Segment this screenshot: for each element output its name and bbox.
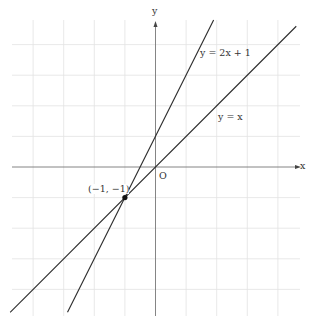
y-axis-label: y (152, 6, 157, 16)
x-axis-label: x (300, 161, 305, 171)
intersection-label: (−1, −1) (88, 184, 129, 194)
intersection-point (122, 195, 127, 200)
coordinate-plane (0, 0, 313, 331)
plotted-lines (10, 20, 296, 312)
line-label-2x-plus-1: y = 2x + 1 (200, 48, 251, 58)
grid-lines (12, 20, 300, 316)
y-axis-arrow-icon (154, 21, 158, 27)
origin-label: O (159, 171, 167, 181)
line-label-y-equals-x: y = x (218, 112, 243, 122)
plot-line (68, 20, 214, 312)
plot-line (10, 26, 296, 312)
